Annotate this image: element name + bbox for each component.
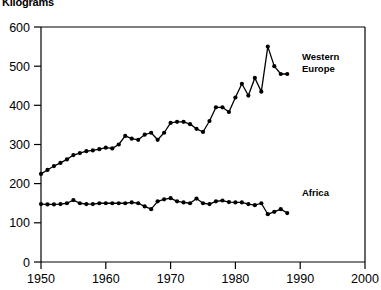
data-point bbox=[91, 148, 95, 152]
data-point bbox=[169, 121, 173, 125]
data-point bbox=[253, 203, 257, 207]
series-line bbox=[41, 47, 287, 174]
series-label-western-europe-line2: Europe bbox=[302, 63, 335, 74]
chart-container: Kilograms 600 500 400 300 200 100 bbox=[0, 0, 381, 290]
data-point bbox=[78, 151, 82, 155]
y-tick-label-600: 600 bbox=[9, 21, 30, 35]
data-point bbox=[65, 157, 69, 161]
data-point bbox=[52, 164, 56, 168]
data-point bbox=[259, 201, 263, 205]
data-point bbox=[45, 168, 49, 172]
data-point bbox=[240, 82, 244, 86]
data-point bbox=[117, 142, 121, 146]
data-point bbox=[117, 201, 121, 205]
data-point bbox=[58, 202, 62, 206]
data-point bbox=[52, 202, 56, 206]
series-label-western-europe-line1: Western bbox=[302, 51, 340, 62]
data-point bbox=[272, 210, 276, 214]
data-point bbox=[246, 93, 250, 97]
series-label-africa: Africa bbox=[302, 187, 330, 198]
data-point bbox=[175, 120, 179, 124]
series-western-europe bbox=[39, 44, 289, 176]
data-point bbox=[240, 200, 244, 204]
data-point bbox=[227, 200, 231, 204]
y-tick-label-0: 0 bbox=[23, 256, 30, 270]
data-point bbox=[181, 200, 185, 204]
data-point bbox=[71, 153, 75, 157]
series-africa bbox=[39, 196, 289, 216]
data-point bbox=[279, 207, 283, 211]
data-point bbox=[162, 197, 166, 201]
data-point bbox=[194, 196, 198, 200]
data-point bbox=[233, 95, 237, 99]
x-tick-label-1990: 1990 bbox=[286, 272, 314, 286]
data-point bbox=[207, 119, 211, 123]
data-point bbox=[45, 202, 49, 206]
data-point bbox=[136, 201, 140, 205]
data-point bbox=[123, 201, 127, 205]
data-point bbox=[207, 202, 211, 206]
y-axis-ticks bbox=[34, 27, 41, 262]
data-point bbox=[227, 110, 231, 114]
data-point bbox=[143, 204, 147, 208]
data-point bbox=[253, 76, 257, 80]
data-point bbox=[97, 201, 101, 205]
data-point bbox=[39, 172, 43, 176]
data-point bbox=[97, 147, 101, 151]
data-point bbox=[201, 201, 205, 205]
data-point bbox=[194, 127, 198, 131]
data-point bbox=[149, 131, 153, 135]
y-tick-label-300: 300 bbox=[9, 138, 30, 152]
data-point bbox=[104, 201, 108, 205]
data-point bbox=[220, 105, 224, 109]
data-point bbox=[188, 122, 192, 126]
data-point bbox=[143, 133, 147, 137]
data-point bbox=[156, 138, 160, 142]
data-point bbox=[266, 44, 270, 48]
data-point bbox=[84, 202, 88, 206]
x-tick-label-2000: 2000 bbox=[351, 272, 379, 286]
data-point bbox=[233, 200, 237, 204]
data-point bbox=[104, 146, 108, 150]
data-point bbox=[110, 201, 114, 205]
data-point bbox=[162, 131, 166, 135]
data-point bbox=[130, 137, 134, 141]
data-point bbox=[149, 207, 153, 211]
data-point bbox=[220, 198, 224, 202]
x-tick-label-1960: 1960 bbox=[92, 272, 120, 286]
y-tick-label-400: 400 bbox=[9, 99, 30, 113]
data-point bbox=[175, 199, 179, 203]
data-point bbox=[285, 211, 289, 215]
x-axis-ticks bbox=[41, 262, 365, 269]
data-point bbox=[110, 146, 114, 150]
data-point bbox=[201, 130, 205, 134]
data-point bbox=[123, 134, 127, 138]
data-point bbox=[272, 64, 276, 68]
y-axis-tick-labels: 600 500 400 300 200 100 0 bbox=[9, 21, 30, 270]
x-tick-label-1980: 1980 bbox=[221, 272, 249, 286]
data-point bbox=[188, 201, 192, 205]
y-tick-label-100: 100 bbox=[9, 216, 30, 230]
x-tick-label-1970: 1970 bbox=[157, 272, 185, 286]
data-point bbox=[136, 138, 140, 142]
data-point bbox=[78, 201, 82, 205]
data-point bbox=[214, 105, 218, 109]
data-point bbox=[214, 199, 218, 203]
data-point bbox=[279, 72, 283, 76]
x-tick-label-1950: 1950 bbox=[27, 272, 55, 286]
data-point bbox=[91, 202, 95, 206]
data-point bbox=[181, 120, 185, 124]
line-chart-plot: 600 500 400 300 200 100 0 1950 1960 1970… bbox=[0, 0, 381, 290]
x-axis-tick-labels: 1950 1960 1970 1980 1990 2000 bbox=[27, 272, 379, 286]
y-tick-label-200: 200 bbox=[9, 177, 30, 191]
data-point bbox=[71, 198, 75, 202]
data-point bbox=[246, 202, 250, 206]
data-point bbox=[84, 149, 88, 153]
data-point bbox=[156, 199, 160, 203]
data-point bbox=[169, 196, 173, 200]
data-point bbox=[130, 200, 134, 204]
data-series-layer bbox=[39, 44, 289, 216]
data-point bbox=[39, 202, 43, 206]
data-point bbox=[58, 161, 62, 165]
data-point bbox=[65, 201, 69, 205]
